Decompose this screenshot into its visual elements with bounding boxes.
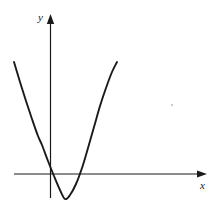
y-axis-arrowhead [47,14,54,24]
parabola-curve [14,62,117,199]
figure-canvas [0,0,214,208]
scan-artifact-speck [171,104,173,106]
y-axis-label: y [38,12,43,23]
parabola-figure: y x [0,0,214,208]
x-axis-label: x [200,180,205,191]
x-axis-arrowhead [197,170,207,177]
